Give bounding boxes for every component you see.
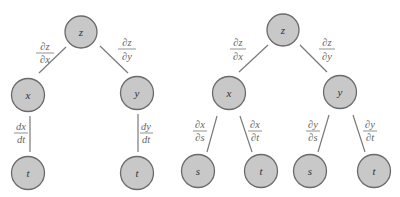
svg-text:∂x: ∂x <box>195 119 205 130</box>
node-z: z <box>65 16 97 48</box>
edge-y-t <box>353 115 365 152</box>
svg-text:∂s: ∂s <box>195 132 204 143</box>
node-y: y <box>324 76 357 109</box>
tree-two-variables: ∂z ∂x ∂z ∂y ∂x ∂s ∂x ∂t ∂y ∂s ∂y ∂t <box>182 14 391 188</box>
svg-text:s: s <box>308 165 312 177</box>
svg-text:∂x: ∂x <box>250 119 260 130</box>
label-dx-dt: ∂x ∂t <box>248 119 262 143</box>
svg-text:∂y: ∂y <box>322 51 332 62</box>
node-t: t <box>358 155 391 188</box>
svg-text:∂y: ∂y <box>365 119 375 130</box>
label-dx-dt: dx dt <box>14 121 28 145</box>
node-x: x <box>213 77 246 110</box>
tree-one-variable: ∂z ∂x ∂z ∂y dx dt dy dt z x y t t <box>12 16 154 190</box>
label-dz-dy: ∂z ∂y <box>319 37 335 62</box>
svg-text:x: x <box>226 87 232 99</box>
svg-text:dx: dx <box>16 121 26 132</box>
svg-text:∂s: ∂s <box>308 132 317 143</box>
svg-text:∂z: ∂z <box>122 37 131 48</box>
svg-text:y: y <box>134 87 140 99</box>
label-dz-dy: ∂z ∂y <box>118 37 136 62</box>
label-dy-dt: ∂y ∂t <box>363 119 377 143</box>
node-y: y <box>121 77 154 110</box>
node-x: x <box>12 79 45 112</box>
node-s: s <box>294 155 327 188</box>
svg-text:dt: dt <box>142 134 151 145</box>
svg-text:∂y: ∂y <box>308 119 318 130</box>
svg-text:z: z <box>78 26 84 38</box>
label-dz-dx: ∂z ∂x <box>230 37 246 62</box>
svg-text:∂z: ∂z <box>322 37 331 48</box>
label-dy-dt: dy dt <box>140 121 153 145</box>
svg-text:∂t: ∂t <box>251 132 260 143</box>
svg-text:dt: dt <box>17 134 26 145</box>
svg-text:∂x: ∂x <box>233 51 243 62</box>
svg-text:∂z: ∂z <box>40 41 49 52</box>
svg-text:∂z: ∂z <box>233 37 242 48</box>
edge-x-s <box>207 116 217 152</box>
svg-text:s: s <box>196 165 200 177</box>
edge-y-s <box>318 115 329 152</box>
node-s: s <box>182 155 215 188</box>
svg-text:x: x <box>25 89 31 101</box>
svg-text:z: z <box>280 24 286 36</box>
tree-diagrams: ∂z ∂x ∂z ∂y dx dt dy dt z x y t t <box>0 0 400 197</box>
svg-text:∂x: ∂x <box>40 54 50 65</box>
node-t: t <box>12 157 45 190</box>
svg-text:∂y: ∂y <box>122 51 132 62</box>
svg-text:y: y <box>337 86 343 98</box>
label-dy-ds: ∂y ∂s <box>306 119 320 143</box>
node-z: z <box>267 14 299 46</box>
node-t: t <box>245 155 278 188</box>
node-t: t <box>121 157 154 190</box>
svg-text:∂t: ∂t <box>366 132 375 143</box>
label-dx-ds: ∂x ∂s <box>193 119 207 143</box>
svg-text:dy: dy <box>141 121 151 132</box>
